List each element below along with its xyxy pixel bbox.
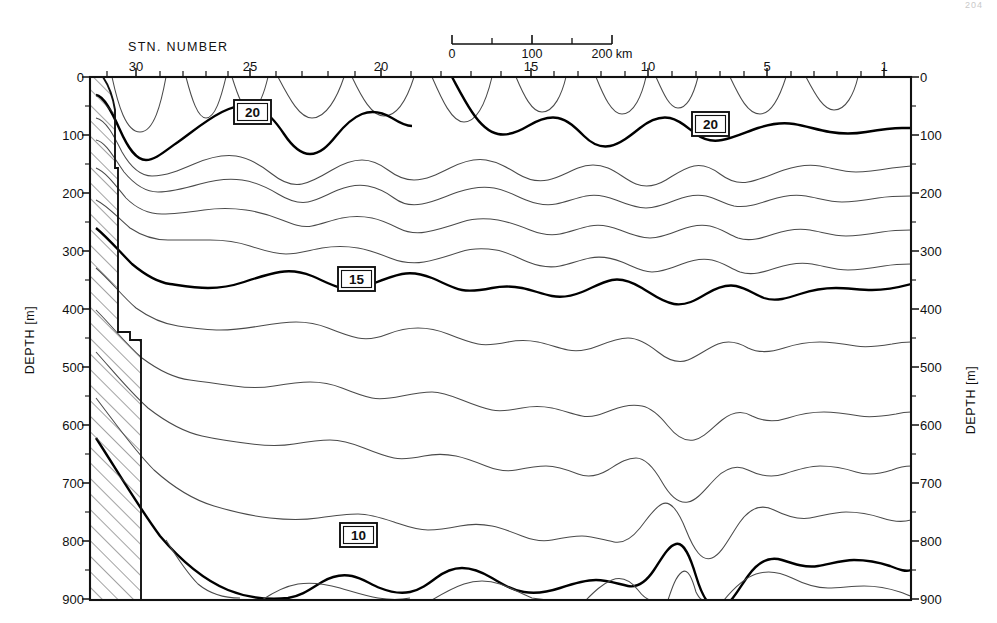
contour-label-20-right-text: 20 [703, 117, 718, 132]
page-number: 204 [965, 0, 983, 10]
isotherm-18 [96, 140, 911, 208]
right-axis-title: DEPTH [m] [964, 366, 978, 435]
isotherm-16 [96, 200, 911, 274]
right-depth-label-300: 300 [920, 244, 942, 259]
isotherm-19 [96, 118, 911, 186]
isotherm-10-bold [96, 438, 911, 608]
left-depth-label-900: 900 [62, 592, 84, 607]
right-depth-label-700: 700 [920, 476, 942, 491]
left-axis-title: DEPTH [m] [23, 306, 37, 375]
left-depth-label-700: 700 [62, 476, 84, 491]
right-depth-label-200: 200 [920, 186, 942, 201]
right-depth-label-500: 500 [920, 360, 942, 375]
right-depth-label-100: 100 [920, 128, 942, 143]
scalebar-label-200km: 200 km [592, 47, 633, 61]
isotherm-contours [96, 77, 911, 608]
isotherm-21 [112, 77, 858, 132]
right-depth-label-0: 0 [920, 70, 927, 85]
isotherm-9 [166, 540, 911, 600]
right-depth-label-600: 600 [920, 418, 942, 433]
isotherm-20-bold [96, 77, 911, 160]
left-depth-tick-labels: 0 100 200 300 400 500 600 700 800 900 [62, 70, 84, 607]
right-depth-label-900: 900 [920, 592, 942, 607]
left-depth-label-100: 100 [62, 128, 84, 143]
right-depth-tick-labels: 0 100 200 300 400 500 600 700 800 900 [920, 70, 942, 607]
contour-label-10: 10 [340, 523, 377, 547]
isotherm-11 [96, 398, 911, 559]
right-depth-label-800: 800 [920, 534, 942, 549]
left-depth-label-800: 800 [62, 534, 84, 549]
distance-scale-bar: 0 100 200 km [449, 35, 633, 61]
top-axis-ticks [107, 68, 884, 77]
seafloor-hatched-region [90, 77, 141, 600]
top-axis-title: STN. NUMBER [128, 40, 228, 54]
contour-label-20-right: 20 [692, 112, 729, 136]
isotherm-14 [96, 268, 911, 362]
scalebar-label-0: 0 [449, 47, 456, 61]
contour-label-15: 15 [338, 267, 375, 291]
right-depth-label-400: 400 [920, 302, 942, 317]
contour-label-20-left-text: 20 [245, 105, 260, 120]
temperature-section-figure: 0 100 200 km STN. NUMBER 30 25 20 15 10 … [0, 0, 997, 623]
left-depth-label-600: 600 [62, 418, 84, 433]
plot-frame [90, 77, 911, 600]
isotherm-15-bold [96, 228, 911, 304]
contour-label-15-text: 15 [349, 272, 365, 287]
isotherm-12 [96, 352, 911, 502]
left-depth-label-400: 400 [62, 302, 84, 317]
contour-label-10-text: 10 [351, 528, 366, 543]
station-tick-labels: 30 25 20 15 10 5 1 [129, 59, 888, 74]
contour-label-20-left: 20 [234, 100, 271, 124]
depth-axis-ticks [82, 77, 919, 599]
left-depth-label-500: 500 [62, 360, 84, 375]
isotherm-17 [96, 168, 911, 240]
section-plot-svg: 0 100 200 km STN. NUMBER 30 25 20 15 10 … [0, 0, 997, 623]
left-depth-label-300: 300 [62, 244, 84, 259]
left-depth-label-200: 200 [62, 186, 84, 201]
